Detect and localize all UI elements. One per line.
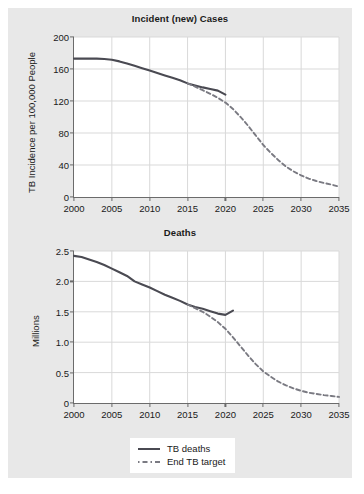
- y-axis-label-incident-cases: TB Incidence per 100,000 People: [26, 52, 37, 193]
- y-tick-mark-incident-cases: [70, 68, 74, 69]
- x-tick-mark-deaths: [263, 403, 264, 407]
- figure-panel: Incident (new) Cases TB Incidence per 10…: [8, 8, 352, 478]
- y-tick-mark-deaths: [70, 281, 74, 282]
- x-tick-mark-incident-cases: [225, 197, 226, 201]
- x-tick-label-incident-cases: 2020: [215, 203, 236, 214]
- x-tick-label-deaths: 2000: [63, 409, 84, 420]
- legend-item-end-tb-target: End TB target: [137, 455, 226, 468]
- y-tick-mark-deaths: [70, 372, 74, 373]
- legend-item-tb-deaths: TB deaths: [137, 442, 226, 455]
- y-tick-mark-incident-cases: [70, 100, 74, 101]
- legend-label-end-tb-target: End TB target: [167, 456, 225, 467]
- y-tick-label-incident-cases: 40: [58, 160, 69, 171]
- y-tick-label-deaths: 0.5: [56, 367, 69, 378]
- y-tick-label-deaths: 1.5: [56, 306, 69, 317]
- y-tick-mark-deaths: [70, 342, 74, 343]
- y-tick-mark-deaths: [70, 311, 74, 312]
- series-canvas-incident-cases: [74, 37, 339, 197]
- x-tick-mark-deaths: [338, 403, 339, 407]
- x-tick-mark-deaths: [111, 403, 112, 407]
- x-tick-mark-incident-cases: [263, 197, 264, 201]
- x-tick-mark-deaths: [73, 403, 74, 407]
- x-tick-label-incident-cases: 2025: [253, 203, 274, 214]
- x-tick-mark-deaths: [149, 403, 150, 407]
- chart-deaths: Deaths Millions 00.51.01.52.02.520002005…: [8, 222, 352, 422]
- x-tick-label-incident-cases: 2010: [139, 203, 160, 214]
- x-tick-label-deaths: 2030: [291, 409, 312, 420]
- x-tick-label-deaths: 2020: [215, 409, 236, 420]
- y-tick-label-deaths: 2.5: [56, 246, 69, 257]
- x-tick-label-incident-cases: 2030: [291, 203, 312, 214]
- x-tick-mark-incident-cases: [73, 197, 74, 201]
- y-tick-mark-incident-cases: [70, 36, 74, 37]
- chart-legend: TB deaths End TB target: [130, 438, 235, 473]
- x-tick-mark-incident-cases: [111, 197, 112, 201]
- x-tick-mark-deaths: [225, 403, 226, 407]
- x-tick-mark-incident-cases: [187, 197, 188, 201]
- series-line-solid: [74, 256, 233, 315]
- x-tick-label-incident-cases: 2000: [63, 203, 84, 214]
- y-tick-label-incident-cases: 160: [53, 64, 69, 75]
- x-tick-label-deaths: 2035: [328, 409, 349, 420]
- y-tick-label-deaths: 1.0: [56, 337, 69, 348]
- plot-area-incident-cases: 0408012016020020002005201020152020202520…: [73, 37, 339, 198]
- y-tick-label-incident-cases: 80: [58, 128, 69, 139]
- x-tick-mark-deaths: [187, 403, 188, 407]
- x-tick-mark-incident-cases: [149, 197, 150, 201]
- y-tick-label-deaths: 0: [64, 398, 69, 409]
- y-tick-label-deaths: 2.0: [56, 276, 69, 287]
- y-tick-mark-deaths: [70, 250, 74, 251]
- dashed-line-icon: [137, 457, 161, 467]
- y-tick-mark-incident-cases: [70, 132, 74, 133]
- chart-title-deaths: Deaths: [8, 227, 352, 238]
- y-tick-label-incident-cases: 0: [64, 192, 69, 203]
- chart-title-incident-cases: Incident (new) Cases: [8, 13, 352, 24]
- y-tick-label-incident-cases: 200: [53, 32, 69, 43]
- x-tick-mark-incident-cases: [301, 197, 302, 201]
- x-tick-label-deaths: 2005: [101, 409, 122, 420]
- y-tick-mark-incident-cases: [70, 164, 74, 165]
- series-canvas-deaths: [74, 251, 339, 403]
- x-tick-label-deaths: 2015: [177, 409, 198, 420]
- x-tick-label-incident-cases: 2035: [328, 203, 349, 214]
- x-tick-label-deaths: 2010: [139, 409, 160, 420]
- y-axis-label-deaths: Millions: [30, 315, 41, 347]
- plot-area-deaths: 00.51.01.52.02.5200020052010201520202025…: [73, 251, 339, 404]
- solid-line-icon: [137, 444, 161, 454]
- x-tick-mark-deaths: [301, 403, 302, 407]
- legend-label-tb-deaths: TB deaths: [167, 443, 210, 454]
- y-tick-label-incident-cases: 120: [53, 96, 69, 107]
- chart-incident-cases: Incident (new) Cases TB Incidence per 10…: [8, 8, 352, 224]
- x-tick-label-deaths: 2025: [253, 409, 274, 420]
- x-tick-label-incident-cases: 2015: [177, 203, 198, 214]
- x-tick-label-incident-cases: 2005: [101, 203, 122, 214]
- x-tick-mark-incident-cases: [338, 197, 339, 201]
